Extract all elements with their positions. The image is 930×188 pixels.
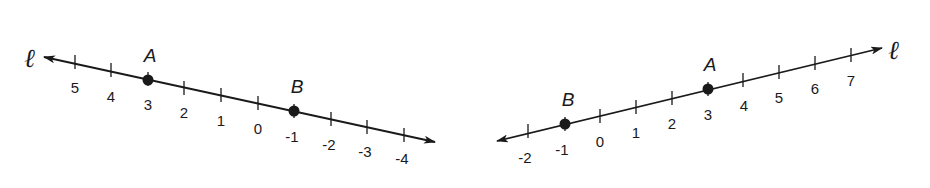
point-a-label: A	[143, 45, 157, 66]
tick-label: 3	[704, 106, 712, 123]
left-number-line: ℓ 5 4 3 2 1 0 -1 -2 -3 -4 A B	[24, 43, 435, 167]
tick-label: 6	[811, 80, 819, 97]
line-l-right	[497, 48, 882, 141]
tick-label: -2	[322, 136, 335, 153]
tick-label: 5	[71, 79, 79, 96]
tick-label: 3	[144, 96, 152, 113]
tick-label: 2	[180, 104, 188, 121]
point-b-label: B	[562, 89, 575, 110]
tick-labels: 5 4 3 2 1 0 -1 -2 -3 -4	[71, 79, 409, 167]
tick-label: -2	[518, 149, 531, 166]
point-b-dot	[560, 119, 571, 130]
number-line-figures: ℓ 5 4 3 2 1 0 -1 -2 -3 -4 A B	[0, 0, 930, 188]
tick-label: 4	[107, 88, 115, 105]
tick-label: -1	[555, 141, 568, 158]
tick-labels: -2 -1 0 1 2 3 4 5 6 7	[518, 72, 855, 166]
tick-label: 4	[740, 97, 748, 114]
line-label-ell: ℓ	[888, 35, 899, 65]
tick-label: 0	[596, 133, 604, 150]
tick-marks	[75, 55, 404, 142]
tick-label: 7	[847, 72, 855, 89]
tick-marks	[528, 48, 851, 138]
right-number-line: ℓ -2 -1 0 1 2 3 4 5 6 7 B A	[497, 35, 899, 166]
tick-label: 0	[254, 120, 262, 137]
tick-label: -3	[358, 143, 371, 160]
tick-label: 5	[775, 89, 783, 106]
tick-label: 2	[668, 115, 676, 132]
tick-label: 1	[632, 124, 640, 141]
tick-label: 1	[217, 112, 225, 129]
point-a-dot	[143, 75, 154, 86]
point-a-dot	[703, 84, 714, 95]
tick-label: -4	[395, 150, 408, 167]
line-l-left	[44, 57, 435, 142]
line-label-ell: ℓ	[24, 43, 35, 73]
point-a-label: A	[703, 54, 717, 75]
point-b-label: B	[291, 76, 304, 97]
tick-label: -1	[285, 128, 298, 145]
point-b-dot	[289, 106, 300, 117]
